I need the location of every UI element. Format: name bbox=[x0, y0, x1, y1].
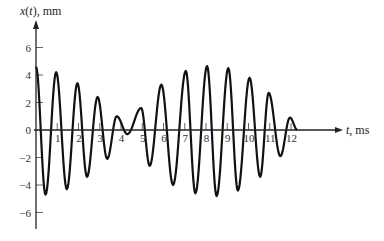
y-tick-label: 0 bbox=[26, 124, 32, 136]
series-line-x-t bbox=[36, 66, 297, 196]
x-axis-arrow-icon bbox=[335, 127, 343, 133]
y-tick-label: −6 bbox=[19, 207, 31, 219]
x-label-units: , ms bbox=[349, 123, 369, 137]
y-axis-arrow-icon bbox=[33, 20, 39, 29]
y-tick-label: −2 bbox=[19, 152, 31, 164]
chart: 6420−2−4−6 123456789101112 x(t), mm t, m… bbox=[0, 0, 384, 241]
y-label-close: ), bbox=[33, 4, 43, 18]
x-tick-label: 7 bbox=[183, 132, 189, 144]
y-axis-label: x(t), mm bbox=[19, 4, 62, 18]
y-tick-label: −4 bbox=[19, 179, 31, 191]
x-tick-label: 9 bbox=[225, 132, 231, 144]
x-tick-label: 4 bbox=[119, 132, 125, 144]
x-tick-label: 8 bbox=[204, 132, 210, 144]
x-tick-label: 11 bbox=[265, 132, 276, 144]
y-label-units: mm bbox=[43, 4, 62, 18]
x-tick-label: 2 bbox=[76, 132, 82, 144]
x-tick-label: 1 bbox=[55, 132, 61, 144]
y-tick-label: 6 bbox=[26, 42, 32, 54]
y-tick-label: 4 bbox=[26, 69, 32, 81]
x-tick-label: 12 bbox=[286, 132, 297, 144]
x-tick-label: 10 bbox=[244, 132, 256, 144]
y-tick-label: 2 bbox=[26, 97, 32, 109]
x-axis-label: t, ms bbox=[346, 123, 370, 137]
